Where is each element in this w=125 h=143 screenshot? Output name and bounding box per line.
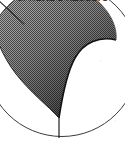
technical-figure-diagram [0,0,125,143]
figure-container: SPHERE 2 RESULTS [0,0,125,143]
